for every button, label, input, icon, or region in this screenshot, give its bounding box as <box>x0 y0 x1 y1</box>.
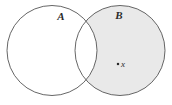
element-point-dot <box>117 63 119 65</box>
set-label-a: A <box>56 10 64 22</box>
venn-diagram-canvas: A B x <box>0 0 172 105</box>
element-point-label: x <box>120 59 125 69</box>
venn-diagram-figure: A B x <box>0 0 172 105</box>
set-label-b: B <box>114 9 122 21</box>
shaded-region-b-minus-a <box>0 0 172 105</box>
